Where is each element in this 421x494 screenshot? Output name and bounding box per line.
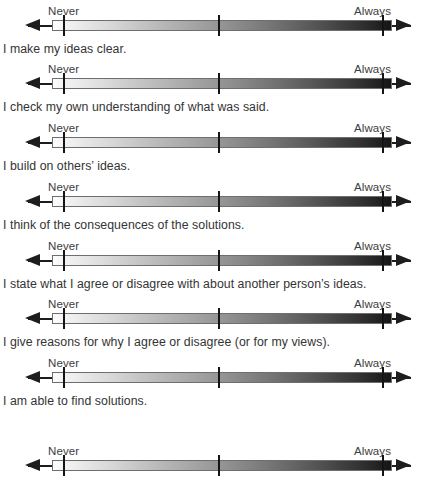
gradient-scale-bar[interactable] [52,460,392,471]
anchor-label-always: Always [354,356,391,370]
gradient-scale-bar[interactable] [52,372,392,383]
scale-tick-left[interactable] [63,308,65,329]
scale-tick-middle[interactable] [218,15,220,36]
gradient-scale-bar[interactable] [52,255,392,266]
gradient-scale-bar[interactable] [52,313,392,324]
anchor-label-always: Always [354,121,391,135]
statement-text: I check my own understanding of what was… [3,99,269,115]
scale-tick-middle[interactable] [218,191,220,212]
scale-tick-left[interactable] [63,250,65,271]
anchor-label-always: Always [354,297,391,311]
rating-row: Never Always I build on others’ ideas. [0,121,421,179]
arrow-left-icon [25,77,40,89]
anchor-label-always: Always [354,62,391,76]
anchor-label-always: Always [354,4,391,18]
rating-row: Never Always I make my ideas clear. [0,4,421,62]
arrow-left-icon [25,254,40,266]
arrow-left-icon [25,312,40,324]
arrow-right-icon [396,254,411,266]
gradient-scale-bar[interactable] [52,20,392,31]
scale-tick-left[interactable] [63,132,65,153]
statement-text: I build on others’ ideas. [3,158,130,174]
rating-row: Never Always I state what I agree or dis… [0,239,421,297]
statement-text: I make my ideas clear. [3,41,126,57]
scale-tick-right[interactable] [382,367,384,388]
rating-row: Never Always [0,444,421,494]
scale-tick-left[interactable] [63,455,65,476]
rating-row: Never Always I think of the consequences… [0,180,421,238]
gradient-scale-bar[interactable] [52,78,392,89]
arrow-right-icon [396,459,411,471]
scale-tick-left[interactable] [63,191,65,212]
rating-row: Never Always I give reasons for why I ag… [0,297,421,355]
arrow-left-icon [25,371,40,383]
gradient-scale-bar[interactable] [52,196,392,207]
scale-tick-middle[interactable] [218,250,220,271]
arrow-right-icon [396,195,411,207]
scale-tick-right[interactable] [382,15,384,36]
rating-scale-survey: Never Always I make my ideas clear. Neve… [0,0,421,494]
arrow-right-icon [396,136,411,148]
statement-text: I give reasons for why I agree or disagr… [3,334,330,350]
rating-row: Never Always I check my own understandin… [0,62,421,120]
scale-tick-middle[interactable] [218,73,220,94]
scale-tick-right[interactable] [382,455,384,476]
arrow-left-icon [25,19,40,31]
scale-tick-left[interactable] [63,367,65,388]
scale-tick-middle[interactable] [218,367,220,388]
scale-tick-right[interactable] [382,308,384,329]
scale-tick-left[interactable] [63,73,65,94]
anchor-label-always: Always [354,444,391,458]
arrow-left-icon [25,459,40,471]
anchor-label-always: Always [354,239,391,253]
statement-text: I am able to find solutions. [3,393,147,409]
scale-tick-right[interactable] [382,132,384,153]
scale-tick-middle[interactable] [218,455,220,476]
arrow-left-icon [25,136,40,148]
scale-tick-right[interactable] [382,73,384,94]
arrow-right-icon [396,77,411,89]
scale-tick-left[interactable] [63,15,65,36]
scale-tick-middle[interactable] [218,308,220,329]
gradient-scale-bar[interactable] [52,137,392,148]
arrow-left-icon [25,195,40,207]
statement-text: I think of the consequences of the solut… [3,217,245,233]
arrow-right-icon [396,371,411,383]
anchor-label-always: Always [354,180,391,194]
scale-tick-right[interactable] [382,191,384,212]
scale-tick-right[interactable] [382,250,384,271]
arrow-right-icon [396,19,411,31]
statement-text: I state what I agree or disagree with ab… [3,276,366,292]
rating-row: Never Always I am able to find solutions… [0,356,421,414]
scale-tick-middle[interactable] [218,132,220,153]
arrow-right-icon [396,312,411,324]
